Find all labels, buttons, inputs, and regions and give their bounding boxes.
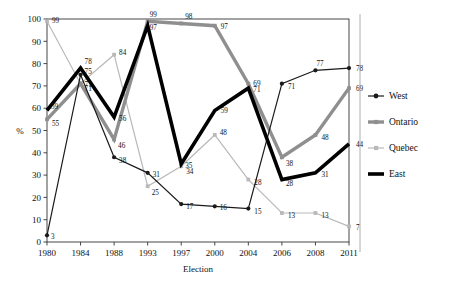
x-tick-label: 2008 [306,248,325,258]
x-tick-label: 1993 [139,248,158,258]
data-label: 46 [118,142,126,150]
legend-label: East [389,169,406,179]
data-label: 78 [85,58,93,66]
data-label: 98 [185,13,193,21]
data-label: 99 [150,11,158,19]
data-label: 17 [186,203,194,211]
data-label: 28 [286,180,294,188]
data-label: 16 [220,204,228,212]
data-point [179,22,183,26]
data-label: 99 [52,17,60,25]
data-point [280,82,284,86]
data-point [146,171,150,175]
legend-marker [374,94,379,99]
y-tick-label: 30 [32,170,42,180]
data-label: 55 [52,120,60,128]
data-point [146,184,150,188]
y-tick-label: 10 [32,215,42,225]
x-tick-label: 1980 [38,248,57,258]
data-point [213,24,217,28]
data-label: 7 [356,224,360,232]
y-tick-label: 80 [32,59,42,69]
data-label: 48 [321,134,329,142]
data-label: 97 [221,23,229,31]
x-tick-label: 1997 [172,248,191,258]
data-label: 59 [51,103,59,111]
y-tick-label: 100 [28,14,42,24]
data-point [179,202,183,206]
legend-item-ontario[interactable]: Ontario [368,117,418,127]
y-tick-label: 70 [32,81,42,91]
legend-label: Quebec [389,143,418,153]
data-point [112,155,116,159]
data-label: 3 [51,233,55,241]
plot-frame [47,19,349,242]
x-tick-label: 1984 [72,248,91,258]
x-tick-label: 2004 [239,248,258,258]
data-point [213,133,217,137]
data-label: 97 [150,24,158,32]
data-label: 75 [85,68,93,76]
legend-item-west[interactable]: West [368,91,408,101]
data-point [112,138,116,142]
data-label: 59 [221,107,229,115]
legend-item-east[interactable]: East [368,169,406,179]
data-point [313,68,317,72]
y-tick-label: 60 [32,103,42,113]
legend-marker [374,120,378,124]
data-label: 77 [316,60,324,68]
line-chart: 0102030405060708090100%19801984198819931… [0,0,456,307]
data-label: 71 [288,83,296,91]
data-point [246,82,250,86]
data-label: 84 [119,49,127,57]
chart-root: 0102030405060708090100%19801984198819931… [0,0,456,307]
x-tick-label: 2006 [273,248,292,258]
data-label: 35 [185,162,193,170]
y-axis-title: % [16,126,24,136]
legend-item-quebec[interactable]: Quebec [368,143,418,153]
data-label: 25 [152,189,160,197]
y-tick-label: 20 [32,193,42,203]
data-label: 38 [286,160,294,168]
data-label: 69 [253,80,261,88]
data-label: 13 [288,212,296,220]
data-label: 56 [119,115,127,123]
data-label: 31 [321,171,329,179]
data-label: 48 [220,129,228,137]
x-tick-label: 2000 [206,248,225,258]
x-tick-label: 2011 [340,248,358,258]
data-label: 71 [85,81,93,89]
legend-label: Ontario [389,117,418,127]
y-tick-label: 40 [32,148,42,158]
series-line-west [47,68,349,235]
data-point [347,86,351,90]
y-tick-label: 90 [32,37,42,47]
data-label: 13 [321,212,329,220]
data-point [314,211,318,215]
y-tick-label: 0 [37,237,42,247]
series-line-quebec [47,21,349,226]
data-label: 31 [153,171,161,179]
data-point [45,19,49,23]
data-point [280,211,284,215]
x-tick-label: 1988 [105,248,124,258]
data-point [246,206,250,210]
data-label: 28 [254,179,262,187]
series-quebec [45,19,351,228]
data-point [45,233,49,237]
data-point [314,133,318,137]
data-label: 38 [119,157,127,165]
legend-label: West [389,91,408,101]
data-point [347,66,351,70]
data-point [112,53,116,57]
data-point [347,224,351,228]
data-point [213,204,217,208]
y-tick-label: 50 [32,126,42,136]
data-point [246,178,250,182]
data-point [280,155,284,159]
data-label: 15 [254,208,262,216]
data-point [45,117,49,121]
legend-marker [374,146,378,150]
x-axis-title: Election [183,264,213,274]
